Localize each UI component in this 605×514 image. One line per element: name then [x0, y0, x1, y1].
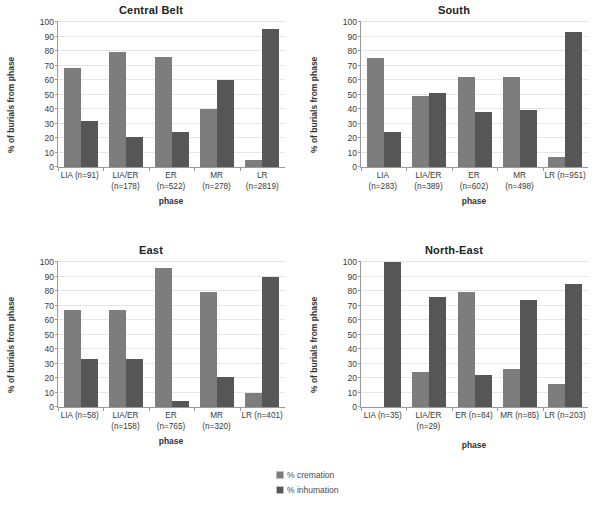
x-axis-title-north-east: phase	[360, 440, 588, 450]
bar-inhumation[interactable]	[429, 297, 446, 407]
x-tick-label: LIA (n=58)	[57, 410, 103, 432]
bar-cremation[interactable]	[412, 96, 429, 167]
bar-inhumation[interactable]	[520, 110, 537, 167]
y-tick-label: 0	[28, 403, 54, 412]
y-tick-label: 60	[28, 76, 54, 85]
y-axis-label-north-east: % of burials from phase	[307, 280, 321, 410]
x-tick-label: ER (n=522)	[148, 170, 194, 192]
legend-label-inhumation: % inhumation	[287, 485, 339, 495]
y-tick-label: 50	[331, 330, 357, 339]
x-tick-label: MR (n=320)	[194, 410, 240, 432]
x-tick-label: LR (n=951)	[542, 170, 588, 192]
y-tick-label: 60	[28, 316, 54, 325]
chart-panel-south: South % of burials from phase 0102030405…	[303, 0, 605, 236]
bar-inhumation[interactable]	[429, 93, 446, 167]
chart-panel-central-belt: Central Belt % of burials from phase 010…	[0, 0, 302, 236]
x-tick-labels-central-belt: LIA (n=91)LIA/ER (n=178)ER (n=522)MR (n=…	[57, 170, 285, 192]
x-tick-label: LIA/ER (n=29)	[406, 410, 452, 432]
bar-group	[58, 262, 103, 407]
bar-cremation[interactable]	[503, 77, 520, 167]
bar-cremation[interactable]	[503, 369, 520, 407]
bar-cremation[interactable]	[64, 68, 81, 167]
chart-title-north-east: North-East	[303, 244, 605, 256]
bar-inhumation[interactable]	[126, 137, 143, 167]
y-axis-label-south: % of burials from phase	[307, 40, 321, 170]
bar-inhumation[interactable]	[81, 359, 98, 407]
y-axis-label-east: % of burials from phase	[4, 280, 18, 410]
x-tick-label: LIA (n=35)	[360, 410, 406, 432]
bar-group	[240, 22, 285, 167]
bar-inhumation[interactable]	[126, 359, 143, 407]
bar-inhumation[interactable]	[475, 375, 492, 407]
bar-cremation[interactable]	[245, 393, 262, 408]
bar-cremation[interactable]	[64, 310, 81, 407]
y-tick-label: 100	[331, 18, 357, 27]
bar-cremation[interactable]	[155, 57, 172, 167]
bar-cremation[interactable]	[548, 157, 565, 167]
x-tick-label: LIA/ER (n=178)	[103, 170, 149, 192]
bar-group	[497, 262, 542, 407]
bar-cremation[interactable]	[200, 292, 217, 407]
bar-cremation[interactable]	[200, 109, 217, 167]
y-tick-label: 100	[28, 18, 54, 27]
chart-title-central-belt: Central Belt	[0, 4, 302, 16]
x-axis-title-east: phase	[57, 436, 285, 446]
bar-cremation[interactable]	[412, 372, 429, 407]
y-tick-label: 10	[28, 148, 54, 157]
chart-title-east: East	[0, 244, 302, 256]
y-tick-label: 40	[331, 105, 357, 114]
bar-groups	[58, 22, 285, 167]
bar-inhumation[interactable]	[384, 262, 401, 407]
bar-cremation[interactable]	[458, 292, 475, 407]
y-tick-label: 10	[331, 148, 357, 157]
bar-inhumation[interactable]	[565, 32, 582, 167]
chart-panel-north-east: North-East % of burials from phase 01020…	[303, 240, 605, 476]
y-tick-label: 0	[28, 163, 54, 172]
bar-group	[103, 262, 148, 407]
bar-inhumation[interactable]	[172, 132, 189, 167]
bar-cremation[interactable]	[458, 77, 475, 167]
y-tick-label: 40	[28, 345, 54, 354]
bar-inhumation[interactable]	[217, 80, 234, 167]
y-tick-label: 30	[28, 359, 54, 368]
y-tick-label: 80	[331, 287, 357, 296]
x-tick-label: MR (n=85)	[497, 410, 543, 432]
bar-inhumation[interactable]	[384, 132, 401, 167]
bar-groups	[58, 262, 285, 407]
legend-item-inhumation: % inhumation	[276, 485, 339, 495]
bar-inhumation[interactable]	[172, 401, 189, 407]
bar-inhumation[interactable]	[520, 300, 537, 407]
bar-cremation[interactable]	[109, 52, 126, 167]
bar-inhumation[interactable]	[475, 112, 492, 167]
x-tick-label: LIA (n=91)	[57, 170, 103, 192]
bar-group	[149, 262, 194, 407]
y-tick-label: 0	[331, 163, 357, 172]
y-tick-label: 90	[28, 272, 54, 281]
x-tick-label: LIA (n=283)	[360, 170, 406, 192]
bar-inhumation[interactable]	[81, 121, 98, 167]
x-tick-labels-east: LIA (n=58)LIA/ER (n=158)ER (n=765)MR (n=…	[57, 410, 285, 432]
plot-area-central-belt: 0102030405060708090100	[57, 22, 285, 168]
plot-area-north-east: 0102030405060708090100	[360, 262, 588, 408]
y-axis-label-central-belt: % of burials from phase	[4, 40, 18, 170]
plot-area-south: 0102030405060708090100	[360, 22, 588, 168]
y-tick-label: 90	[28, 32, 54, 41]
bar-cremation[interactable]	[109, 310, 126, 407]
bar-group	[406, 262, 451, 407]
bar-inhumation[interactable]	[217, 377, 234, 407]
bar-cremation[interactable]	[367, 58, 384, 167]
bar-inhumation[interactable]	[262, 29, 279, 167]
x-tick-label: MR (n=498)	[497, 170, 543, 192]
bar-group	[103, 22, 148, 167]
y-tick-label: 80	[28, 47, 54, 56]
y-tick-label: 70	[28, 301, 54, 310]
bar-cremation[interactable]	[155, 268, 172, 407]
y-tick-label: 100	[28, 258, 54, 267]
bar-inhumation[interactable]	[262, 277, 279, 408]
bar-cremation[interactable]	[548, 384, 565, 407]
x-tick-labels-south: LIA (n=283)LIA/ER (n=389)ER (n=602)MR (n…	[360, 170, 588, 192]
legend-swatch-cremation-icon	[276, 471, 284, 479]
bar-cremation[interactable]	[245, 160, 262, 167]
bar-inhumation[interactable]	[565, 284, 582, 407]
x-tick-label: LR (n=2819)	[239, 170, 285, 192]
